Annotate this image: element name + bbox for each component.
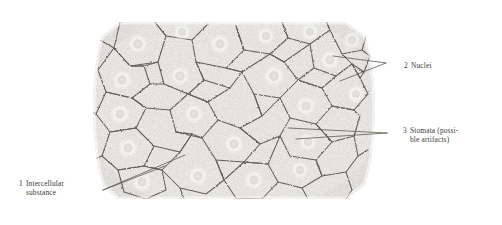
label-intercellular-substance: 1Intercellularsubstance — [19, 179, 64, 198]
micrograph-image — [84, 10, 384, 212]
label-nuclei-text: Nuclei — [411, 61, 432, 70]
label-nuclei-number: 2 — [404, 61, 411, 70]
label-stomata-text: Stomata (possi- — [410, 126, 458, 135]
label-stomata-number: 3 — [403, 126, 410, 135]
label-stomata-text-line2: ble artifacts) — [403, 135, 458, 144]
label-nuclei: 2Nuclei — [404, 61, 432, 70]
label-intercellular-text-line2: substance — [19, 188, 64, 197]
label-intercellular-text: Intercellular — [26, 179, 64, 188]
label-stomata: 3Stomata (possi-ble artifacts) — [403, 126, 458, 145]
label-intercellular-number: 1 — [19, 179, 26, 188]
tissue-sheet — [84, 10, 384, 212]
micrograph-svg — [84, 10, 384, 212]
figure-plate-with-labels: 2Nuclei 3Stomata (possi-ble artifacts) 1… — [0, 0, 502, 225]
